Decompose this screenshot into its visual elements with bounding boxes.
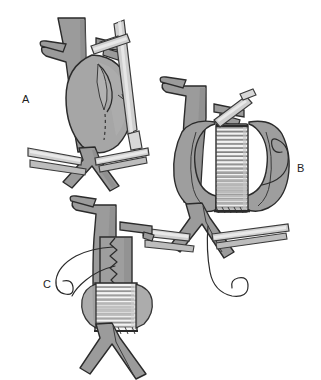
figure-canvas: A: [0, 0, 321, 380]
panel-b-label: B: [297, 162, 304, 174]
aaa-repair-figure: A: [0, 0, 321, 380]
closed-sac-shade-c: [124, 238, 131, 284]
panel-a-label: A: [22, 93, 30, 105]
panel-c-label: C: [43, 278, 51, 290]
tube-graft-b: [216, 124, 248, 212]
graft-corrugations-b: [217, 128, 247, 208]
